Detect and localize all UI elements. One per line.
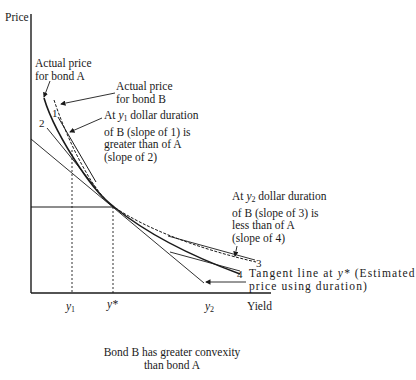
bond-a-label-line1: Actual price [35, 57, 92, 70]
y1-note-line2: of B (slope of 1) is [104, 126, 198, 139]
tangent-note-var: y* [338, 267, 351, 279]
tick-ystar-var: y* [107, 298, 118, 310]
slope-marker-4: 4 [237, 268, 243, 280]
y1-note-line1: At y1 dollar duration [104, 109, 198, 126]
y2-duration-note: At y2 dollar duration of B (slope of 3) … [232, 190, 326, 244]
y1-note-line3: greater than of A [104, 138, 198, 151]
tick-ystar: y* [107, 298, 118, 311]
tick-y1: y1 [66, 300, 75, 317]
y1-note-prefix: At [104, 109, 118, 121]
caption-line1: Bond B has greater convexity [100, 346, 244, 359]
slope-marker-2: 2 [39, 117, 45, 129]
bond-a-label-line2: for bond A [35, 70, 92, 83]
bond-b-arrow [61, 93, 115, 104]
slope-line-1 [58, 117, 96, 182]
y2-note-line4: (slope of 4) [232, 232, 326, 245]
y2-note-line1: At y2 dollar duration [232, 190, 326, 207]
tick-y2-sub: 2 [210, 305, 214, 314]
y1-note-line4: (slope of 2) [104, 151, 198, 164]
caption: Bond B has greater convexity than bond A [100, 346, 244, 371]
tangent-note-prefix: Tangent line at [249, 267, 338, 279]
y2-note-line2: of B (slope of 3) is [232, 207, 326, 220]
slope-marker-1: 1 [52, 107, 58, 119]
y1-duration-note: At y1 dollar duration of B (slope of 1) … [104, 109, 198, 163]
tangent-note-line1: Tangent line at y* (Estimated [249, 267, 416, 280]
slope-marker-3: 3 [256, 257, 262, 269]
y1-note-suffix: dollar duration [127, 109, 198, 121]
bond-b-label: Actual price for bond B [116, 80, 173, 105]
y1-note-arrow [70, 118, 102, 132]
tangent-note-suffix: (Estimated [351, 267, 416, 279]
bond-a-arrow [44, 81, 50, 97]
tick-y2: y2 [205, 300, 214, 317]
caption-line2: than bond A [100, 359, 244, 372]
y2-note-line3: less than of A [232, 219, 326, 232]
y2-note-suffix: dollar duration [255, 190, 326, 202]
y2-note-prefix: At [232, 190, 246, 202]
bond-a-label: Actual price for bond A [35, 57, 92, 82]
y-axis-label: Price [5, 11, 29, 24]
tangent-note-line2: price using duration) [249, 280, 416, 293]
tangent-note: Tangent line at y* (Estimated price usin… [249, 267, 416, 292]
tick-y1-sub: 1 [71, 305, 75, 314]
bond-b-label-line2: for bond B [116, 93, 173, 106]
x-axis-label: Yield [247, 300, 272, 313]
bond-b-label-line1: Actual price [116, 80, 173, 93]
